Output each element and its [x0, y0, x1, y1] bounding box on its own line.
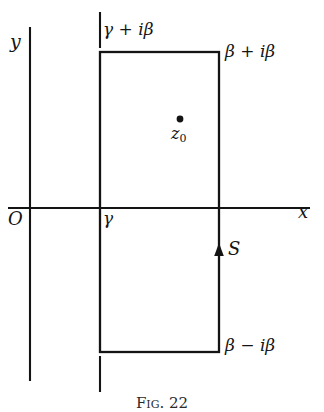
z0-label-subscript: 0 [179, 132, 186, 145]
z0-point-marker [177, 116, 184, 123]
y-axis-label: y [10, 32, 21, 51]
corner-label-top-left: γ + iβ [103, 21, 153, 38]
contour-rectangle [100, 52, 219, 352]
corner-label-bottom-right: β − iβ [225, 337, 275, 354]
corner-label-top-right: β + iβ [225, 43, 275, 60]
x-axis-label: x [298, 203, 308, 221]
z0-point-label: z0 [171, 126, 186, 144]
origin-label: O [8, 210, 23, 228]
gamma-abscissa-label: γ [103, 210, 113, 227]
contour-direction-label: S [228, 240, 240, 258]
figure-caption: Fig. 22 [0, 396, 324, 411]
direction-arrow-icon [214, 243, 224, 256]
